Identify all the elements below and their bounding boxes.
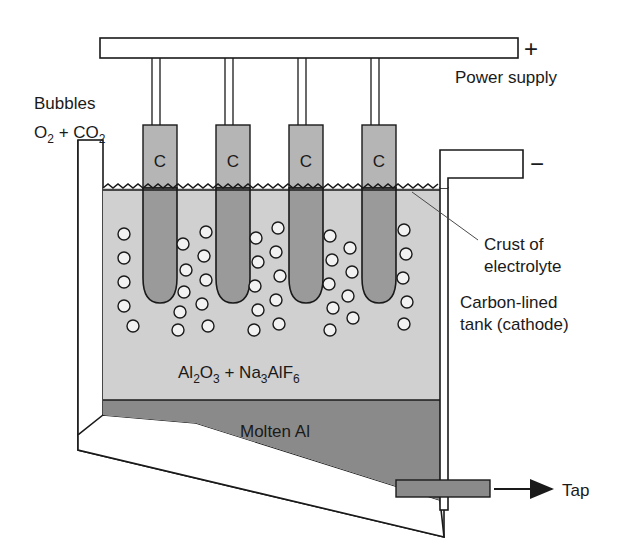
tank-left-wall xyxy=(78,140,103,435)
anode-2-submerged xyxy=(216,188,250,303)
gas-bubble xyxy=(398,318,410,330)
tap-spout xyxy=(396,480,552,497)
power-supply-label: Power supply xyxy=(455,68,558,87)
anode-4-submerged xyxy=(362,188,396,303)
gas-bubble xyxy=(249,280,261,292)
anode-1[interactable]: C xyxy=(143,58,177,303)
bubbles-formula-co: CO xyxy=(73,123,99,142)
gas-bubble xyxy=(324,230,336,242)
formula-plus: + xyxy=(220,363,239,382)
gas-bubble xyxy=(323,278,335,290)
gas-bubble xyxy=(127,320,139,332)
gas-bubble xyxy=(118,252,130,264)
gas-bubble xyxy=(272,222,284,234)
positive-terminal-label: + xyxy=(524,35,538,62)
tank-label-line2: tank (cathode) xyxy=(460,315,569,334)
gas-bubble xyxy=(200,274,212,286)
gas-bubble xyxy=(401,296,413,308)
gas-bubble xyxy=(344,242,356,254)
formula-al: Al xyxy=(178,363,193,382)
gas-bubble xyxy=(198,250,210,262)
gas-bubble xyxy=(398,224,410,236)
tap-channel xyxy=(396,480,490,497)
gas-bubble xyxy=(250,232,262,244)
anode-3-label: C xyxy=(300,152,312,171)
gas-bubble xyxy=(324,324,336,336)
anode-3[interactable]: C xyxy=(289,58,323,303)
formula-alf: AlF xyxy=(268,363,294,382)
bubbles-label: Bubbles xyxy=(34,94,95,113)
crust-label-line2: electrolyte xyxy=(484,257,561,276)
anode-3-submerged xyxy=(289,188,323,303)
gas-bubble xyxy=(327,302,339,314)
gas-bubble xyxy=(252,256,264,268)
gas-bubble xyxy=(178,286,190,298)
gas-bubble xyxy=(342,290,354,302)
cathode-lead-bracket xyxy=(440,150,523,188)
busbar xyxy=(100,38,518,58)
tank-label-line1: Carbon-lined xyxy=(460,293,557,312)
anode-2[interactable]: C xyxy=(216,58,250,303)
bubbles-formula-o: O xyxy=(34,123,47,142)
molten-aluminium-label: Molten Al xyxy=(240,422,310,441)
bubbles-formula-plus: + xyxy=(54,123,73,142)
gas-bubble xyxy=(118,228,130,240)
formula-o: O xyxy=(200,363,213,382)
gas-bubble xyxy=(397,272,409,284)
anode-1-submerged xyxy=(143,188,177,303)
tank-right-wall xyxy=(440,188,448,510)
formula-alf-sub: 6 xyxy=(293,372,300,386)
anode-4[interactable]: C xyxy=(362,58,396,303)
gas-bubble xyxy=(177,238,189,250)
anode-4-label: C xyxy=(373,152,385,171)
gas-bubble xyxy=(118,276,130,288)
gas-bubble xyxy=(270,246,282,258)
diagram-canvas: C C C xyxy=(0,0,632,560)
gas-bubble xyxy=(400,248,412,260)
gas-bubble xyxy=(274,270,286,282)
anode-2-label: C xyxy=(227,152,239,171)
electrolysis-cell-diagram: C C C xyxy=(0,0,632,560)
gas-bubble xyxy=(180,264,192,276)
gas-bubble xyxy=(174,306,186,318)
gas-bubble xyxy=(347,312,359,324)
crust-label-line1: Crust of xyxy=(484,235,544,254)
gas-bubble xyxy=(326,254,338,266)
gas-bubble xyxy=(248,324,260,336)
gas-bubble xyxy=(172,324,184,336)
gas-bubble xyxy=(270,294,282,306)
gas-bubble xyxy=(200,226,212,238)
tap-label: Tap xyxy=(562,481,589,500)
gas-bubble xyxy=(346,266,358,278)
gas-bubble xyxy=(196,298,208,310)
gas-bubble xyxy=(252,304,264,316)
anode-1-label: C xyxy=(154,152,166,171)
gas-bubble xyxy=(273,318,285,330)
busbar-rail xyxy=(100,38,518,58)
gas-bubble xyxy=(202,320,214,332)
gas-bubble xyxy=(118,300,130,312)
formula-na: Na xyxy=(239,363,261,382)
bubbles-formula-co-sub: 2 xyxy=(99,132,106,146)
negative-terminal-label: − xyxy=(530,150,544,177)
